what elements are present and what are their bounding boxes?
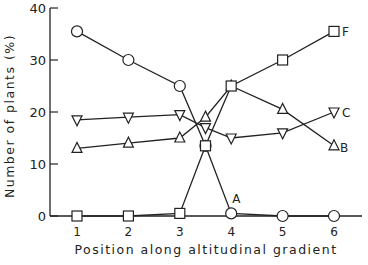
- y-tick-label: 0: [38, 209, 46, 224]
- x-axis-label: Position along altitudinal gradient: [74, 242, 337, 257]
- y-tick-label: 10: [29, 157, 46, 172]
- series-label: B: [340, 141, 348, 155]
- y-tick-label: 20: [29, 105, 46, 120]
- line-chart: 010203040123456Position along altitudina…: [0, 0, 368, 265]
- y-tick-label: 30: [29, 53, 46, 68]
- y-axis-label: Number of plants (%): [2, 34, 17, 198]
- y-tick-label: 40: [29, 1, 46, 16]
- series-label: F: [342, 25, 349, 39]
- x-tick-label: 4: [227, 225, 235, 239]
- series-label: C: [342, 106, 350, 120]
- series-label: A: [232, 192, 241, 206]
- x-tick-label: 5: [279, 225, 287, 239]
- x-tick-label: 6: [330, 225, 338, 239]
- x-tick-label: 1: [73, 225, 81, 239]
- x-tick-label: 2: [125, 225, 133, 239]
- x-tick-label: 3: [176, 225, 184, 239]
